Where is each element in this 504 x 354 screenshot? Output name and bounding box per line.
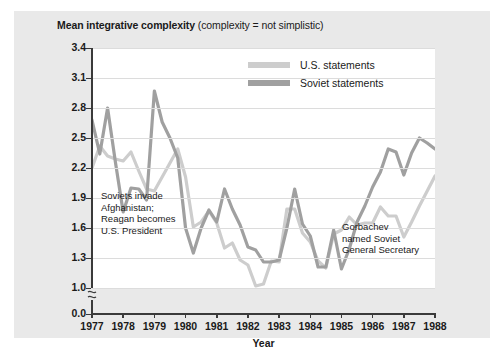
x-axis-tick-mark bbox=[185, 313, 187, 318]
gridline bbox=[92, 288, 435, 289]
y-axis-labels: 3.43.12.82.52.21.91.61.31.00.0 bbox=[48, 0, 86, 354]
x-axis-tick-mark bbox=[403, 313, 405, 318]
annotation-afghanistan: Soviets invade Afghanistan; Reagan becom… bbox=[101, 190, 175, 236]
y-axis-line bbox=[91, 48, 93, 288]
y-axis-tick-mark bbox=[86, 78, 91, 80]
gridline bbox=[92, 138, 435, 139]
x-axis-tick-mark bbox=[434, 313, 436, 318]
y-axis-tick-mark bbox=[86, 168, 91, 170]
axis-break-icon bbox=[86, 289, 98, 303]
gridline bbox=[92, 258, 435, 259]
x-axis-tick-mark bbox=[310, 313, 312, 318]
y-axis-tick-mark bbox=[86, 48, 91, 50]
chart-title: Mean integrative complexity (complexity … bbox=[57, 19, 324, 31]
y-axis-tick-label: 2.8 bbox=[52, 101, 86, 113]
x-axis-tick-mark bbox=[372, 313, 374, 318]
x-axis-tick-mark bbox=[154, 313, 156, 318]
legend-label-us: U.S. statements bbox=[300, 59, 375, 71]
gridline bbox=[92, 168, 435, 169]
y-axis-tick-label: 1.9 bbox=[52, 191, 86, 203]
x-axis-tick-label: 1988 bbox=[415, 320, 455, 332]
x-axis-tick-mark bbox=[341, 313, 343, 318]
x-axis-tick-mark bbox=[278, 313, 280, 318]
x-axis-line bbox=[91, 313, 436, 315]
y-axis-tick-mark bbox=[86, 258, 91, 260]
y-axis-tick-mark bbox=[86, 314, 91, 316]
legend-label-soviet: Soviet statements bbox=[300, 77, 383, 89]
y-axis-tick-label: 0.0 bbox=[52, 307, 86, 319]
annotation-gorbachev: Gorbachev named Soviet General Secretary bbox=[342, 221, 419, 256]
y-axis-tick-label: 1.6 bbox=[52, 221, 86, 233]
legend-swatch-soviet bbox=[248, 80, 290, 86]
x-axis-tick-mark bbox=[91, 313, 93, 318]
y-axis-tick-mark bbox=[86, 198, 91, 200]
y-axis-tick-label: 1.3 bbox=[52, 251, 86, 263]
y-axis-tick-label: 2.5 bbox=[52, 131, 86, 143]
x-axis-tick-mark bbox=[247, 313, 249, 318]
y-axis-tick-mark bbox=[86, 138, 91, 140]
y-axis-tick-mark bbox=[86, 228, 91, 230]
y-axis-tick-label: 3.4 bbox=[52, 41, 86, 53]
gridline bbox=[92, 48, 435, 49]
x-axis-title: Year bbox=[92, 337, 435, 349]
y-axis-tick-label: 3.1 bbox=[52, 71, 86, 83]
legend: U.S. statements Soviet statements bbox=[248, 56, 418, 92]
y-axis-tick-label: 1.0 bbox=[52, 281, 86, 293]
y-axis-tick-mark bbox=[86, 108, 91, 110]
gridline bbox=[92, 108, 435, 109]
x-axis-tick-mark bbox=[216, 313, 218, 318]
legend-item-us: U.S. statements bbox=[248, 56, 418, 74]
legend-item-soviet: Soviet statements bbox=[248, 74, 418, 92]
chart-title-normal: (complexity = not simplistic) bbox=[195, 19, 324, 31]
y-axis-tick-label: 2.2 bbox=[52, 161, 86, 173]
legend-swatch-us bbox=[248, 62, 290, 68]
x-axis-tick-mark bbox=[122, 313, 124, 318]
